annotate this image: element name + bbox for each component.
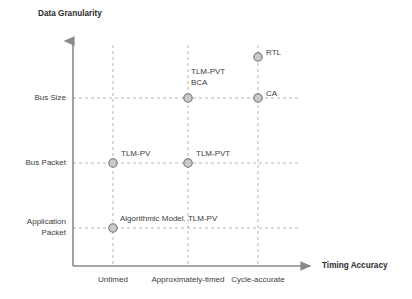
point-label-algorithmic-model: Algorithmic Model. TLM-PV [120, 214, 217, 224]
data-point-tlm-pvt[interactable] [184, 159, 192, 167]
point-label-ca: CA [266, 89, 277, 99]
point-label-tlm-pv: TLM-PV [121, 149, 150, 159]
y-tick-label-packet: Packet [0, 228, 66, 238]
data-point-tlm-pvt-bca[interactable] [184, 94, 192, 102]
point-label-tlm-pvt-bca-line1: TLM-PVT [191, 67, 225, 77]
y-tick-label-bus-size: Bus Size [0, 93, 66, 103]
data-point-ca[interactable] [254, 94, 262, 102]
data-point-rtl[interactable] [254, 53, 262, 61]
y-axis-title: Data Granularity [38, 9, 102, 19]
x-tick-label-cycle-accurate: Cycle-accurate [218, 275, 298, 285]
data-point-algorithmic-model[interactable] [109, 224, 117, 232]
x-axis-title: Timing Accuracy [322, 261, 388, 271]
chart-container: Data Granularity Timing Accuracy Bus Siz… [0, 0, 412, 299]
point-label-tlm-pvt: TLM-PVT [196, 149, 230, 159]
data-point-tlm-pv[interactable] [109, 159, 117, 167]
data-points [109, 53, 262, 232]
point-label-rtl: RTL [266, 48, 281, 58]
y-tick-label-application: Application [0, 217, 66, 227]
point-label-tlm-pvt-bca-line2: BCA [191, 78, 207, 88]
y-tick-label-bus-packet: Bus Packet [0, 158, 66, 168]
